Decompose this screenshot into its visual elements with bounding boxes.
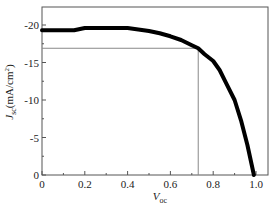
jv-curve-line xyxy=(42,28,254,175)
x-tick-label: 0.6 xyxy=(164,178,178,190)
x-axis-title: Voc xyxy=(153,190,168,205)
y-axis-title: Jsc(mA/cm2) xyxy=(3,64,18,120)
y-tick-label: -15 xyxy=(24,57,39,69)
y-tick-label: -5 xyxy=(30,132,40,144)
y-axis-ticks: 0-5-10-15-20 xyxy=(24,19,46,181)
y-tick-label: -20 xyxy=(24,19,39,31)
x-tick-label: 0 xyxy=(39,178,45,190)
x-tick-label: 0.8 xyxy=(206,178,220,190)
jv-curve-chart: 0-5-10-15-20 00.20.40.60.81.0 Voc Jsc(mA… xyxy=(0,0,277,210)
y-tick-label: -10 xyxy=(24,94,39,106)
x-tick-label: 0.2 xyxy=(78,178,92,190)
x-tick-label: 0.4 xyxy=(121,178,135,190)
x-tick-label: 1.0 xyxy=(249,178,263,190)
x-axis-ticks: 00.20.40.60.81.0 xyxy=(39,171,263,190)
max-power-guides xyxy=(42,48,198,175)
